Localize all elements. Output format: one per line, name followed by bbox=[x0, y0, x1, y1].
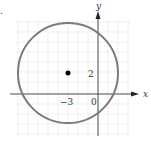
x-tick-label-neg3: −3 bbox=[60, 97, 74, 107]
circle-graph: . x y 2 −3 0 bbox=[0, 0, 151, 149]
y-axis-arrow-icon bbox=[96, 11, 101, 19]
figure-marker: . bbox=[0, 6, 3, 16]
x-axis-arrow-icon bbox=[131, 92, 139, 97]
origin-label: 0 bbox=[91, 97, 97, 107]
center-point bbox=[66, 71, 71, 76]
y-axis-label: y bbox=[95, 1, 102, 11]
y-tick-label-2: 2 bbox=[88, 69, 94, 79]
x-axis-label: x bbox=[143, 89, 148, 99]
